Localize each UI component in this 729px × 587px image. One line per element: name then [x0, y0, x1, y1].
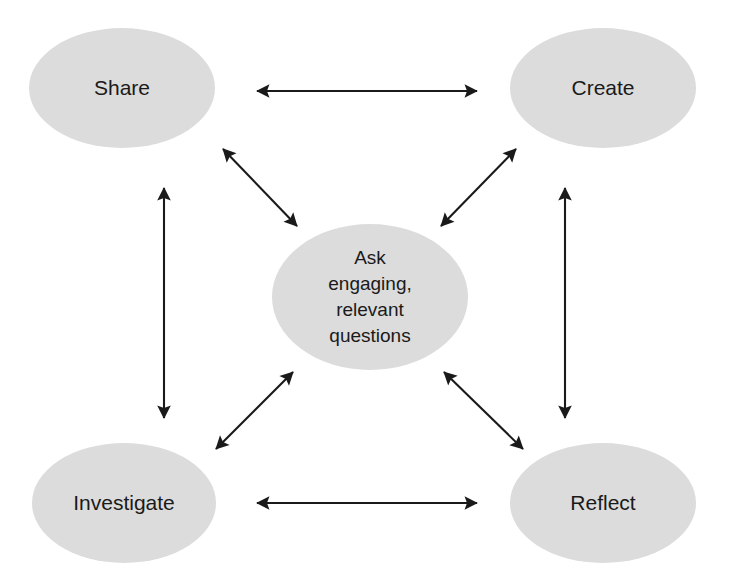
diagram-canvas: Share Create Investigate Reflect Ask eng…	[0, 0, 729, 587]
node-ellipse-create[interactable]	[510, 28, 696, 148]
connector-share-ask	[223, 149, 297, 226]
node-ellipse-ask[interactable]	[272, 224, 468, 370]
node-ellipse-reflect[interactable]	[510, 443, 696, 563]
node-ellipse-investigate[interactable]	[32, 443, 216, 563]
connector-investigate-ask	[216, 372, 293, 449]
connector-reflect-ask	[444, 372, 523, 449]
connector-create-ask	[441, 149, 516, 226]
node-shapes	[29, 28, 696, 563]
node-ellipse-share[interactable]	[29, 28, 215, 148]
diagram-graphics	[0, 0, 729, 587]
